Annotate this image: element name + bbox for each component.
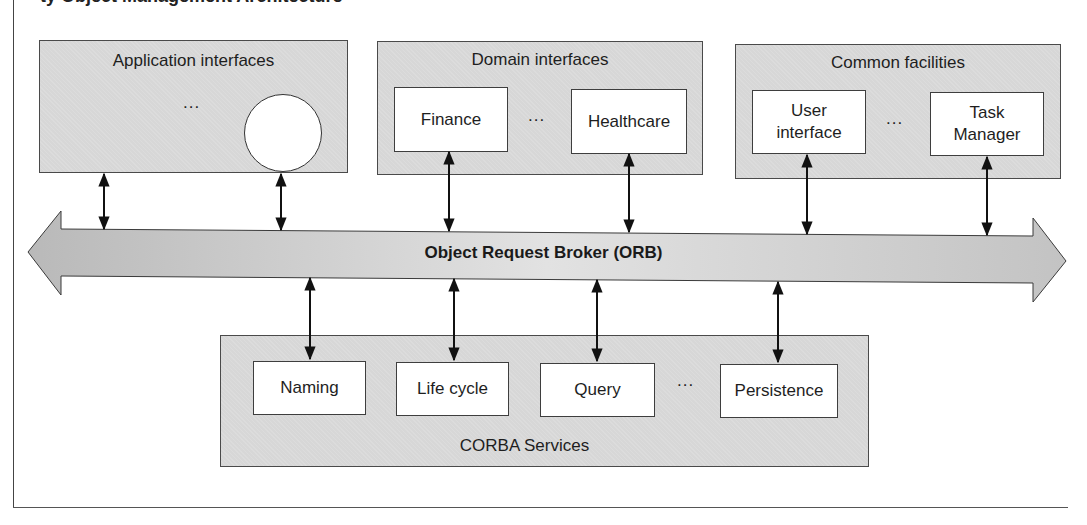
orb-label: Object Request Broker (ORB) [0, 243, 1087, 263]
corba-architecture-diagram: ty Object Management Architecture Applic… [0, 0, 1087, 525]
